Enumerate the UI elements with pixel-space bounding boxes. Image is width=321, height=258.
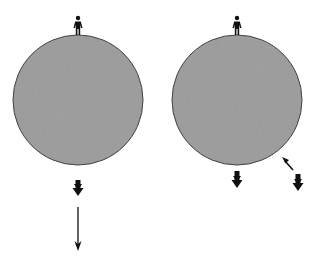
left-panel [13,16,143,251]
pointer-arrow-icon [282,157,293,170]
person-icon [233,16,242,35]
gravity-diagram [0,0,321,258]
thick-down-arrow-icon [232,171,243,188]
planet-right [172,35,302,165]
thick-down-arrow-icon [73,180,84,196]
thin-down-arrow-icon [75,207,82,251]
person-icon [74,16,83,35]
right-panel [172,16,304,191]
planet-left [13,35,143,165]
thick-down-arrow-icon [293,174,304,191]
